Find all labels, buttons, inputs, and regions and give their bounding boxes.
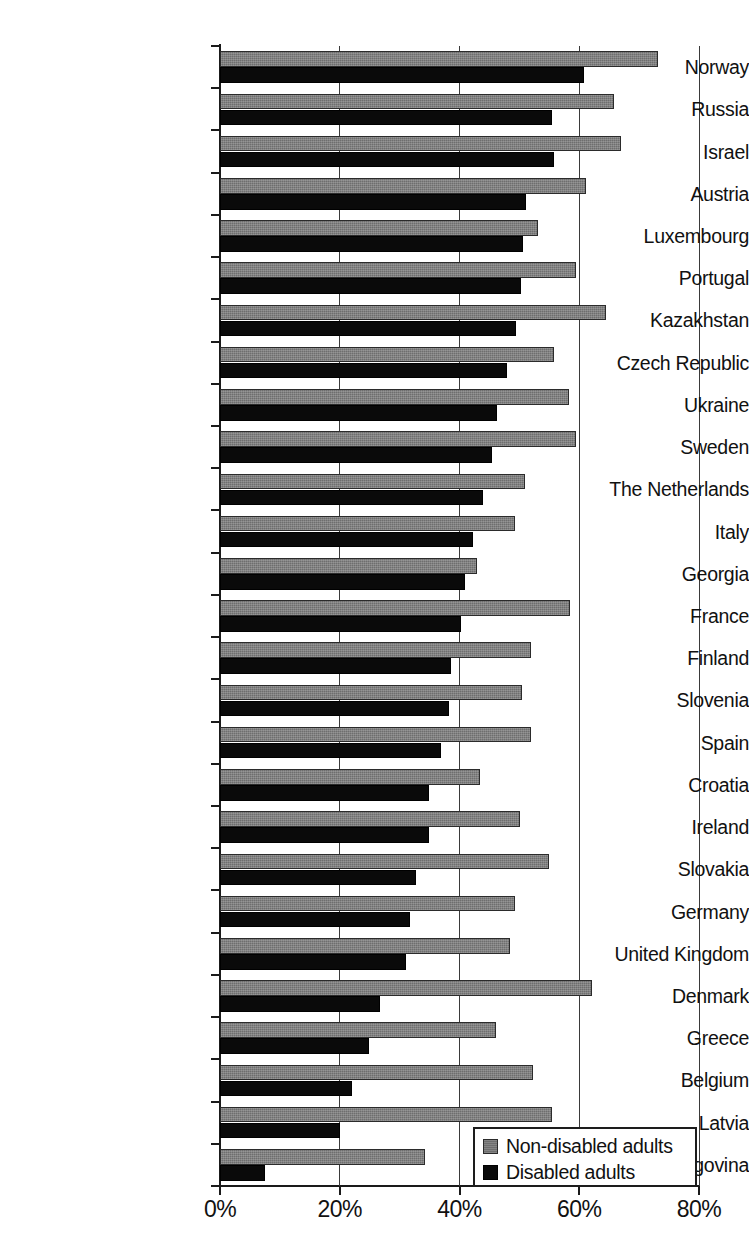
bar-russia-disabled — [220, 110, 552, 126]
x-tick-60% — [578, 1187, 580, 1195]
bars-area — [220, 46, 699, 1186]
bar-croatia-disabled — [220, 785, 429, 801]
x-tick-label-80%: 80% — [659, 1196, 739, 1222]
bar-the-netherlands-disabled — [220, 490, 483, 506]
bar-norway-non-disabled — [220, 51, 658, 67]
y-tick — [211, 425, 220, 427]
bar-portugal-non-disabled — [220, 262, 576, 278]
x-tick-80% — [698, 1187, 700, 1195]
bar-france-disabled — [220, 616, 461, 632]
y-tick — [211, 129, 220, 131]
bar-france-non-disabled — [220, 600, 570, 616]
bar-kazakhstan-disabled — [220, 321, 516, 337]
bar-slovenia-disabled — [220, 701, 449, 717]
legend-swatch-icon-disabled — [483, 1165, 498, 1180]
x-tick-20% — [339, 1187, 341, 1195]
y-tick — [211, 889, 220, 891]
y-tick — [211, 509, 220, 511]
bar-ireland-non-disabled — [220, 811, 520, 827]
bar-austria-non-disabled — [220, 178, 586, 194]
y-tick — [211, 763, 220, 765]
y-tick — [211, 172, 220, 174]
y-tick — [211, 721, 220, 723]
bar-russia-non-disabled — [220, 94, 614, 110]
bar-slovakia-non-disabled — [220, 854, 549, 870]
bar-czech-republic-non-disabled — [220, 347, 554, 363]
bar-georgia-disabled — [220, 574, 465, 590]
bar-united-kingdom-disabled — [220, 954, 406, 970]
bar-belgium-disabled — [220, 1081, 352, 1097]
y-tick — [211, 974, 220, 976]
bar-ukraine-disabled — [220, 405, 497, 421]
x-tick-label-0%: 0% — [180, 1196, 260, 1222]
y-tick — [211, 1101, 220, 1103]
bar-croatia-non-disabled — [220, 769, 480, 785]
y-tick — [211, 298, 220, 300]
bar-greece-disabled — [220, 1038, 369, 1054]
bar-sweden-non-disabled — [220, 431, 576, 447]
bar-georgia-non-disabled — [220, 558, 477, 574]
bar-spain-non-disabled — [220, 727, 531, 743]
bar-denmark-non-disabled — [220, 980, 592, 996]
bar-slovenia-non-disabled — [220, 685, 522, 701]
bar-luxembourg-non-disabled — [220, 220, 538, 236]
bar-italy-disabled — [220, 532, 473, 548]
bar-ireland-disabled — [220, 827, 429, 843]
bar-austria-disabled — [220, 194, 526, 210]
bar-belgium-non-disabled — [220, 1065, 533, 1081]
legend-swatch-icon-non-disabled — [483, 1139, 498, 1154]
bar-latvia-non-disabled — [220, 1107, 552, 1123]
bar-ukraine-non-disabled — [220, 389, 569, 405]
bar-sweden-disabled — [220, 447, 492, 463]
y-tick — [211, 1016, 220, 1018]
bar-bosnia-herzegovina-disabled — [220, 1165, 265, 1181]
y-tick — [211, 932, 220, 934]
y-tick — [211, 214, 220, 216]
y-tick — [211, 1185, 220, 1187]
bar-finland-non-disabled — [220, 642, 531, 658]
bar-germany-non-disabled — [220, 896, 515, 912]
bar-luxembourg-disabled — [220, 236, 523, 252]
y-tick — [211, 45, 220, 47]
bar-finland-disabled — [220, 658, 451, 674]
y-tick — [211, 1058, 220, 1060]
chart-legend: Non-disabled adults Disabled adults — [473, 1127, 697, 1187]
bar-portugal-disabled — [220, 278, 521, 294]
bar-bosnia-herzegovina-non-disabled — [220, 1149, 425, 1165]
legend-label-non-disabled: Non-disabled adults — [506, 1135, 673, 1157]
bar-kazakhstan-non-disabled — [220, 305, 606, 321]
y-tick — [211, 847, 220, 849]
x-tick-40% — [459, 1187, 461, 1195]
legend-item-non-disabled-adults: Non-disabled adults — [483, 1133, 689, 1159]
legend-item-disabled-adults: Disabled adults — [483, 1159, 689, 1185]
y-tick — [211, 678, 220, 680]
bar-norway-disabled — [220, 67, 584, 83]
bar-italy-non-disabled — [220, 516, 515, 532]
bar-greece-non-disabled — [220, 1022, 496, 1038]
bar-spain-disabled — [220, 743, 441, 759]
y-tick — [211, 1143, 220, 1145]
x-tick-label-20%: 20% — [300, 1196, 380, 1222]
y-tick — [211, 256, 220, 258]
y-tick — [211, 341, 220, 343]
horizontal-bar-chart: 0%20%40%60%80% NorwayRussiaIsraelAustria… — [0, 0, 749, 1254]
x-tick-label-40%: 40% — [420, 1196, 500, 1222]
y-tick — [211, 467, 220, 469]
bar-czech-republic-disabled — [220, 363, 507, 379]
y-tick — [211, 805, 220, 807]
y-tick — [211, 383, 220, 385]
bar-the-netherlands-non-disabled — [220, 474, 525, 490]
y-tick — [211, 87, 220, 89]
y-tick — [211, 636, 220, 638]
bar-latvia-disabled — [220, 1123, 340, 1139]
bar-israel-disabled — [220, 152, 554, 168]
y-tick — [211, 552, 220, 554]
legend-label-disabled: Disabled adults — [506, 1161, 635, 1183]
bar-denmark-disabled — [220, 996, 380, 1012]
x-tick-label-60%: 60% — [539, 1196, 619, 1222]
x-tick-0% — [219, 1187, 221, 1195]
bar-germany-disabled — [220, 912, 410, 928]
bar-united-kingdom-non-disabled — [220, 938, 510, 954]
y-tick — [211, 594, 220, 596]
bar-israel-non-disabled — [220, 136, 621, 152]
